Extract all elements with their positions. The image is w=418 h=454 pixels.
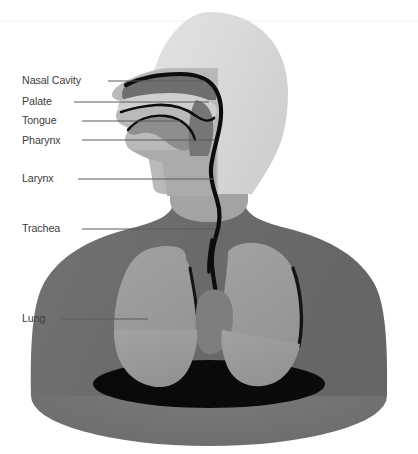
label-larynx[interactable]: Larynx [22, 172, 54, 185]
jaw [132, 150, 216, 196]
label-nasal-cavity[interactable]: Nasal Cavity [22, 74, 81, 87]
label-lung[interactable]: Lung [22, 312, 45, 325]
label-palate[interactable]: Palate [22, 95, 52, 108]
anatomy-illustration [0, 0, 418, 454]
label-tongue[interactable]: Tongue [22, 114, 57, 127]
respiratory-system-figure: Nasal Cavity Palate Tongue Pharynx Laryn… [0, 0, 418, 454]
label-pharynx[interactable]: Pharynx [22, 134, 61, 147]
label-trachea[interactable]: Trachea [22, 222, 60, 235]
